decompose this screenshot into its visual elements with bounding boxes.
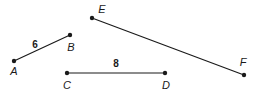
- geometry-canvas: [0, 0, 258, 99]
- point-label-c: C: [63, 80, 71, 91]
- point-e: [90, 16, 94, 20]
- length-label-cd: 8: [113, 59, 119, 69]
- length-label-ab: 6: [32, 40, 38, 50]
- point-label-f: F: [240, 57, 247, 68]
- point-f: [242, 73, 246, 77]
- points-group: [12, 16, 246, 77]
- point-label-d: D: [162, 80, 170, 91]
- point-label-a: A: [10, 66, 17, 77]
- point-a: [12, 59, 16, 63]
- point-c: [65, 71, 69, 75]
- geometry-figure: ABCDEF68: [0, 0, 258, 99]
- segments-group: [14, 18, 244, 75]
- point-label-e: E: [98, 4, 105, 15]
- segment-ab: [14, 35, 70, 61]
- point-d: [163, 71, 167, 75]
- point-b: [68, 33, 72, 37]
- point-label-b: B: [67, 42, 74, 53]
